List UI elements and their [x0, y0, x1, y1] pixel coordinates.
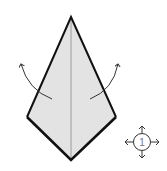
rotation-symbol-icon: 1 [125, 126, 159, 158]
rotation-symbol-label: 1 [139, 137, 145, 148]
kite-shape [27, 17, 116, 160]
origami-diagram: 1 [0, 0, 167, 171]
